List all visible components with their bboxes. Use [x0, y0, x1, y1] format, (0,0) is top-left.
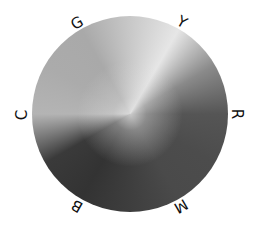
hue-wheel: [32, 16, 228, 212]
label-cyan: C: [14, 107, 30, 123]
label-red: R: [229, 106, 245, 122]
